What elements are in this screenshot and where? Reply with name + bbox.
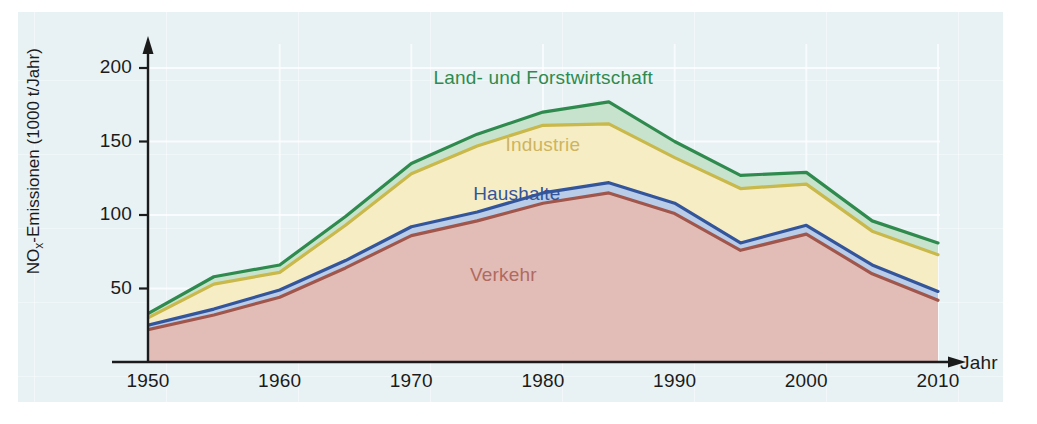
- y-tick-label-200: 200: [36, 56, 132, 78]
- x-tick-label-2000: 2000: [761, 370, 851, 392]
- y-tick-label-50: 50: [36, 277, 132, 299]
- x-tick-label-1960: 1960: [235, 370, 325, 392]
- stacked-area-plot: [0, 0, 1037, 424]
- y-axis-title-subscript: x: [32, 243, 46, 249]
- x-tick-label-1970: 1970: [366, 370, 456, 392]
- chart-page: 50100150200 1950196019701980199020002010…: [0, 0, 1037, 424]
- y-axis-arrowhead: [143, 36, 154, 54]
- series-label-haushalte: Haushalte: [473, 183, 560, 205]
- series-label-verkehr: Verkehr: [470, 264, 537, 286]
- y-axis-title: NOx-Emissionen (1000 t/Jahr): [24, 31, 46, 291]
- series-label-industrie: Industrie: [506, 134, 581, 156]
- y-tick-label-100: 100: [36, 203, 132, 225]
- series-label-land-und-forstwirtschaft: Land- und Forstwirtschaft: [434, 67, 653, 89]
- x-axis-title: Jahr: [960, 352, 998, 374]
- y-axis-title-suffix: -Emissionen (1000 t/Jahr): [24, 48, 43, 243]
- y-axis-title-prefix: NO: [24, 249, 43, 275]
- x-tick-label-1980: 1980: [498, 370, 588, 392]
- y-tick-marks: [139, 68, 148, 289]
- x-tick-label-1990: 1990: [630, 370, 720, 392]
- x-tick-label-1950: 1950: [103, 370, 193, 392]
- y-tick-label-150: 150: [36, 130, 132, 152]
